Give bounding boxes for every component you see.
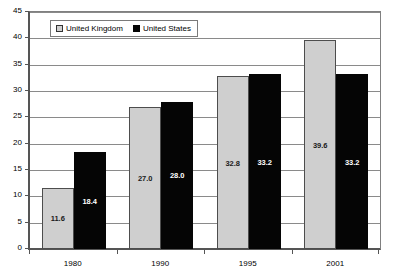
bar-uk-1990: 27.0 (129, 107, 161, 249)
bar-us-1990: 28.0 (161, 102, 193, 249)
legend-swatch-icon-us (133, 25, 140, 32)
x-tick-mark (117, 250, 118, 254)
chart-legend: United Kingdom United States (50, 20, 198, 37)
legend-label-uk: United Kingdom (66, 24, 123, 33)
x-tick-label: 1995 (239, 259, 257, 268)
bar-value-label: 18.4 (75, 198, 105, 206)
bar-uk-1980: 11.6 (42, 188, 74, 249)
x-tick-mark (378, 250, 379, 254)
bar-us-1995: 33.2 (249, 74, 281, 249)
x-axis: 1980199019952001 (29, 250, 381, 276)
bar-value-label: 39.6 (305, 142, 335, 150)
x-tick-mark (204, 250, 205, 254)
bar-us-1980: 18.4 (74, 152, 106, 249)
bar-value-label: 33.2 (337, 159, 367, 167)
y-tick-label: 0 (18, 244, 22, 252)
gridline (30, 12, 380, 13)
bar-chart: 051015202530354045 11.618.427.028.032.83… (0, 0, 400, 276)
y-tick-label: 35 (13, 60, 22, 68)
x-tick-label: 1990 (151, 259, 169, 268)
bar-uk-1995: 32.8 (217, 76, 249, 249)
y-tick-label: 30 (13, 86, 22, 94)
legend-item-united-kingdom[interactable]: United Kingdom (56, 24, 123, 33)
y-tick-label: 20 (13, 139, 22, 147)
bar-us-2001: 33.2 (336, 74, 368, 249)
legend-item-united-states[interactable]: United States (133, 24, 191, 33)
legend-swatch-icon-uk (56, 25, 63, 32)
bar-value-label: 28.0 (162, 172, 192, 180)
bar-uk-2001: 39.6 (304, 40, 336, 249)
plot-area: 11.618.427.028.032.833.239.633.2 United … (29, 11, 381, 250)
bar-value-label: 33.2 (250, 159, 280, 167)
x-tick-mark (29, 250, 30, 254)
y-tick-label: 10 (13, 191, 22, 199)
y-tick-label: 40 (13, 33, 22, 41)
x-tick-mark (292, 250, 293, 254)
x-tick-label: 1980 (64, 259, 82, 268)
bar-value-label: 32.8 (218, 160, 248, 168)
y-tick-label: 25 (13, 112, 22, 120)
y-tick-label: 5 (18, 218, 22, 226)
legend-label-us: United States (143, 24, 191, 33)
y-tick-label: 45 (13, 7, 22, 15)
y-axis: 051015202530354045 (0, 0, 29, 250)
gridline (30, 38, 380, 39)
bar-value-label: 11.6 (43, 215, 73, 223)
bar-value-label: 27.0 (130, 175, 160, 183)
y-tick-label: 15 (13, 165, 22, 173)
x-tick-label: 2001 (326, 259, 344, 268)
